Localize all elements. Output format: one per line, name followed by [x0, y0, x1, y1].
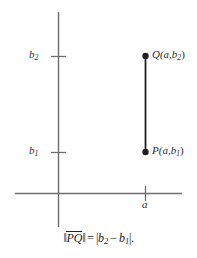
y-tick-label-b2-base: b: [29, 48, 35, 60]
term1-sub: 2: [104, 237, 108, 246]
point-p-label: P(a,b1): [152, 145, 184, 156]
figure-container: b2 b1 a Q(a,b2) P(a,b1) ‖PQ‖=|b2−b1|.: [0, 0, 197, 258]
point-q-label-ysub: 2: [177, 53, 181, 62]
y-tick-label-b1-sub: 1: [35, 149, 39, 158]
point-p-label-name: P(: [152, 144, 162, 156]
caption-formula: ‖PQ‖=|b2−b1|.: [0, 231, 197, 245]
minus-sign: −: [108, 231, 119, 245]
point-p-label-close: ): [180, 144, 184, 156]
y-tick-label-b2-sub: 2: [35, 53, 39, 62]
point-p-label-ysub: 1: [176, 149, 180, 158]
point-q-label-name: Q(: [152, 48, 164, 60]
y-tick-label-b2: b2: [29, 49, 38, 60]
x-tick-label-a: a: [142, 199, 148, 210]
term2-base: b: [119, 231, 125, 245]
point-q-label-close: ): [181, 48, 185, 60]
equals-sign: =: [85, 231, 96, 245]
segment-label-pq: PQ: [66, 231, 82, 245]
y-tick-label-b1-base: b: [29, 144, 35, 156]
coordinate-plane-svg: [0, 0, 197, 258]
y-tick-label-b1: b1: [29, 145, 38, 156]
point-q-marker: [142, 53, 148, 59]
point-q-label: Q(a,b2): [152, 49, 185, 60]
point-p-marker: [142, 149, 148, 155]
caption-period: .: [131, 231, 134, 245]
term2-sub: 1: [125, 237, 129, 246]
